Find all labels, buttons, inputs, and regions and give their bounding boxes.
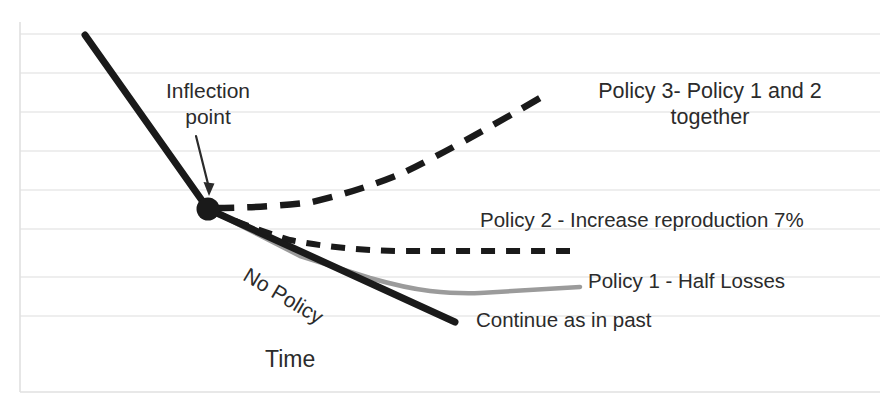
policy-2-label: Policy 2 - Increase reproduction 7% bbox=[480, 207, 804, 232]
continue-as-in-past-label: Continue as in past bbox=[476, 307, 652, 332]
inflection-point-arrow bbox=[196, 136, 215, 196]
policy-1-label: Policy 1 - Half Losses bbox=[588, 268, 785, 293]
inflection-point-label: Inflection point bbox=[148, 78, 268, 129]
x-axis-label-time: Time bbox=[265, 345, 315, 373]
chart-container: Inflection point Policy 3- Policy 1 and … bbox=[0, 0, 892, 416]
inflection-point-marker bbox=[197, 198, 220, 221]
policy-3-label: Policy 3- Policy 1 and 2 together bbox=[556, 78, 864, 130]
